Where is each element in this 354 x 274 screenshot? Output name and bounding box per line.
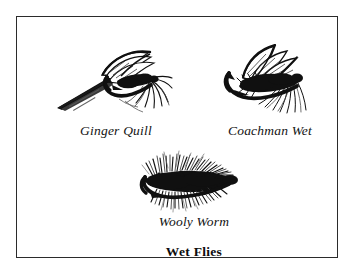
fly-caption-ginger-quill: Ginger Quill: [49, 123, 183, 139]
illustration-plate: Ginger Quill Coachman Wet Wooly Worm Wet…: [0, 0, 354, 274]
wet-fly-ginger-quill-illustration: [55, 45, 173, 121]
wet-fly-wooly-worm-illustration: [129, 150, 247, 216]
fly-caption-wooly-worm: Wooly Worm: [127, 214, 261, 230]
wet-fly-coachman-wet-illustration: [213, 44, 321, 116]
fly-caption-coachman-wet: Coachman Wet: [203, 123, 337, 139]
plate-title: Wet Flies: [94, 244, 294, 260]
plate-border-frame: Ginger Quill Coachman Wet Wooly Worm Wet…: [16, 16, 338, 258]
